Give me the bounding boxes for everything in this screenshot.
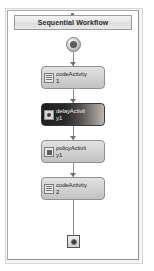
- code-activity-icon: [44, 184, 54, 194]
- workflow-title: Sequential Workflow: [38, 19, 109, 26]
- terminate-icon[interactable]: [67, 235, 80, 248]
- delay-activity-icon: [44, 110, 54, 120]
- activity-label: codeActivity 2: [56, 182, 87, 196]
- connector-activity-4-to-end: [73, 200, 74, 236]
- activity-label: codeActivity 1: [56, 71, 87, 85]
- activity-label: delayActivit y1: [56, 108, 85, 122]
- workflow-designer-surface[interactable]: Sequential Workflow codeActivity 1 delay…: [7, 10, 139, 260]
- activity-node-delay-activity-1[interactable]: delayActivit y1: [41, 103, 105, 126]
- workflow-header-bar[interactable]: Sequential Workflow: [14, 15, 132, 30]
- activity-node-code-activity-1[interactable]: codeActivity 1: [41, 66, 105, 89]
- activity-label: policyActivit y1: [56, 145, 86, 159]
- terminate-icon-core: [71, 239, 77, 245]
- code-activity-icon: [44, 73, 54, 83]
- policy-activity-icon: [44, 147, 54, 157]
- start-icon-core: [70, 41, 77, 48]
- activity-node-policy-activity-1[interactable]: policyActivit y1: [41, 140, 105, 163]
- activity-node-code-activity-2[interactable]: codeActivity 2: [41, 177, 105, 200]
- start-icon[interactable]: [66, 37, 81, 52]
